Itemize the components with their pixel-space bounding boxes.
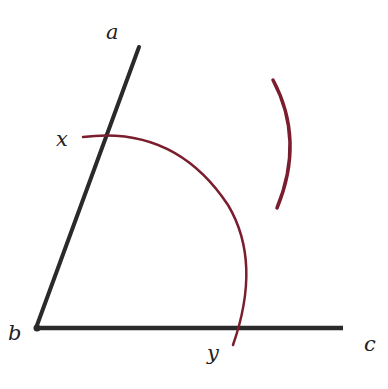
- label-b: b: [8, 321, 21, 345]
- label-y: y: [206, 341, 220, 365]
- ray-ba: [36, 47, 139, 328]
- vertex-b-point: [34, 325, 41, 332]
- label-a: a: [106, 20, 119, 44]
- label-c: c: [364, 332, 376, 356]
- arc-centered-b: [83, 135, 246, 345]
- angle-bisector-diagram: a x b y c: [0, 0, 388, 389]
- arc-bisector-mark: [273, 80, 290, 208]
- label-x: x: [56, 127, 68, 151]
